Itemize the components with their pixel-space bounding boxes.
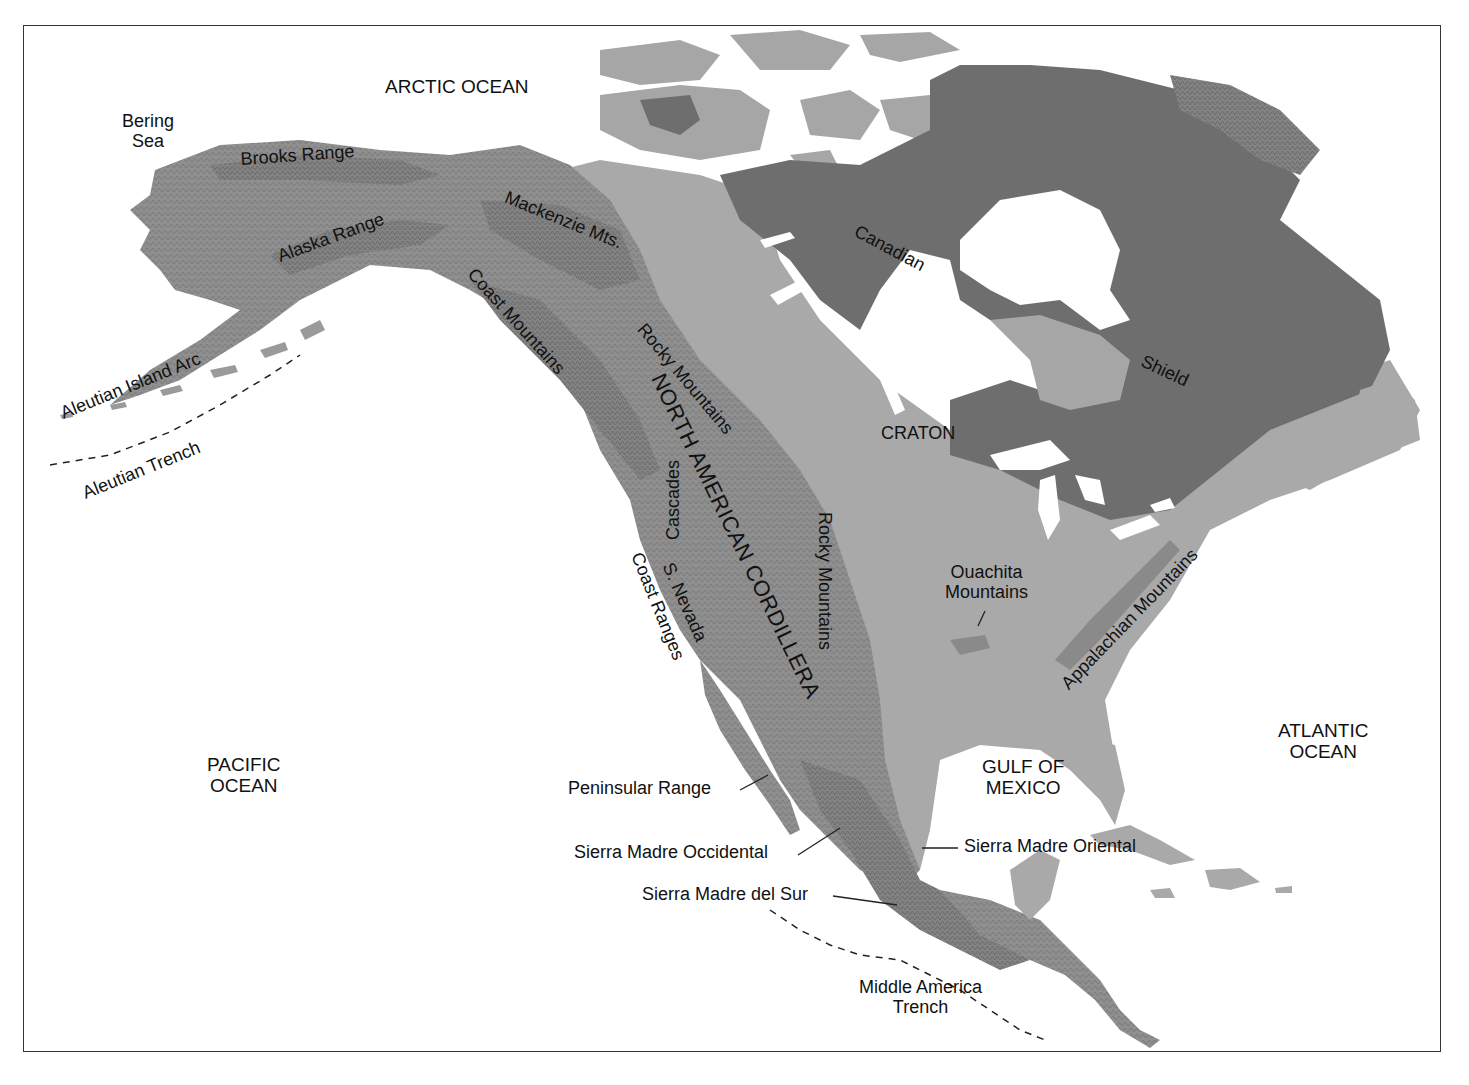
- bering-line-2: Sea: [122, 132, 174, 152]
- label-sierra-madre-oriental: Sierra Madre Oriental: [964, 837, 1136, 857]
- label-sierra-madre-del-sur: Sierra Madre del Sur: [642, 885, 808, 905]
- pacific-line-1: PACIFIC: [207, 755, 281, 776]
- label-ouachita-mountains: Ouachita Mountains: [945, 563, 1028, 603]
- atlantic-line-2: OCEAN: [1278, 742, 1368, 763]
- label-pacific-ocean: PACIFIC OCEAN: [207, 755, 281, 797]
- atlantic-line-1: ATLANTIC: [1278, 721, 1368, 742]
- ouachita-line-2: Mountains: [945, 583, 1028, 603]
- pacific-line-2: OCEAN: [207, 776, 281, 797]
- gulf-line-1: GULF OF: [982, 757, 1064, 778]
- label-atlantic-ocean: ATLANTIC OCEAN: [1278, 721, 1368, 763]
- label-middle-america-trench: Middle America Trench: [859, 978, 982, 1018]
- label-bering-sea: Bering Sea: [122, 112, 174, 152]
- mat-line-1: Middle America: [859, 978, 982, 998]
- label-gulf-of-mexico: GULF OF MEXICO: [982, 757, 1064, 799]
- ouachita-line-1: Ouachita: [945, 563, 1028, 583]
- bering-line-1: Bering: [122, 112, 174, 132]
- map-figure: ARCTIC OCEAN Bering Sea PACIFIC OCEAN AT…: [0, 0, 1469, 1085]
- label-craton: CRATON: [881, 424, 955, 444]
- label-arctic-ocean: ARCTIC OCEAN: [385, 77, 529, 98]
- label-cascades: Cascades: [664, 460, 684, 540]
- label-sierra-madre-occidental: Sierra Madre Occidental: [574, 843, 768, 863]
- gulf-line-2: MEXICO: [982, 778, 1064, 799]
- label-peninsular-range: Peninsular Range: [568, 779, 711, 799]
- label-rocky-mountains-south: Rocky Mountains: [814, 512, 834, 650]
- mat-line-2: Trench: [859, 998, 982, 1018]
